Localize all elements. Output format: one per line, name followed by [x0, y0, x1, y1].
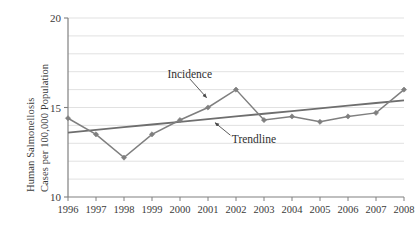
- incidence-marker: [317, 119, 322, 124]
- x-tick-label: 2007: [366, 204, 387, 215]
- x-tick-label: 1999: [142, 204, 163, 215]
- x-tick-label: 2008: [394, 204, 415, 215]
- x-tick-label: 2000: [170, 204, 191, 215]
- x-tick-label: 2006: [338, 204, 359, 215]
- x-tick-label: 2003: [254, 204, 275, 215]
- x-tick-label: 1997: [86, 204, 107, 215]
- annotations: IncidenceTrendline: [167, 68, 276, 144]
- x-tick-label: 2001: [198, 204, 219, 215]
- annotation-label-trendline: Trendline: [232, 133, 276, 145]
- y-tick-label: 15: [50, 102, 62, 114]
- chart-plot-area: 101520 199619971998199920002001200220032…: [0, 0, 415, 236]
- x-tick-label: 1998: [114, 204, 135, 215]
- annotation-label-incidence: Incidence: [167, 68, 212, 80]
- y-tick-label: 20: [50, 12, 62, 24]
- x-tick-label: 2002: [226, 204, 247, 215]
- x-tick-label: 2004: [282, 204, 304, 215]
- x-tick-label: 1996: [58, 204, 79, 215]
- annotation-arrow-trendline: [215, 123, 230, 136]
- y-tick-label: 10: [50, 191, 62, 203]
- x-tick-label: 2005: [310, 204, 331, 215]
- incidence-marker: [345, 114, 350, 119]
- y-axis-ticks: 101520: [50, 12, 68, 203]
- series-incidence: [65, 87, 406, 160]
- gridlines: [68, 18, 404, 179]
- x-axis-ticks: 1996199719981999200020012002200320042005…: [58, 197, 415, 215]
- incidence-path: [68, 90, 404, 158]
- annotation-arrow-incidence: [190, 79, 207, 98]
- chart-figure: Human Salmonellosis Cases per 100,000 Po…: [0, 0, 415, 236]
- incidence-marker: [289, 114, 294, 119]
